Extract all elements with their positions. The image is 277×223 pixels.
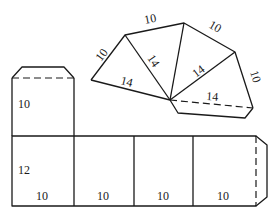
- top-box-tab: [12, 67, 74, 78]
- label-panel-width-3: 10: [157, 189, 169, 203]
- label-panel-width-4: 10: [217, 189, 229, 203]
- label-strip-height: 12: [18, 163, 30, 177]
- triangle-fan: [91, 23, 253, 118]
- net-diagram: 10 10 10 10 14 14 14 14 10 12 10 10 10 1…: [0, 0, 277, 223]
- label-diag-3: 14: [189, 62, 207, 80]
- label-diag-4: 14: [206, 89, 219, 104]
- label-right-edge: 10: [247, 69, 264, 85]
- label-left-edge: 10: [92, 46, 110, 64]
- label-panel-width-2: 10: [97, 189, 109, 203]
- label-diag-1: 14: [119, 73, 134, 89]
- fan-spoke-b: [170, 23, 184, 100]
- strip-glue-tab: [256, 136, 267, 206]
- label-panel-width-1: 10: [36, 189, 48, 203]
- label-top-edge-1: 10: [143, 11, 157, 27]
- label-top-box-height: 10: [18, 97, 30, 111]
- label-top-edge-2: 10: [207, 17, 224, 35]
- fan-outer-edge: [91, 23, 253, 108]
